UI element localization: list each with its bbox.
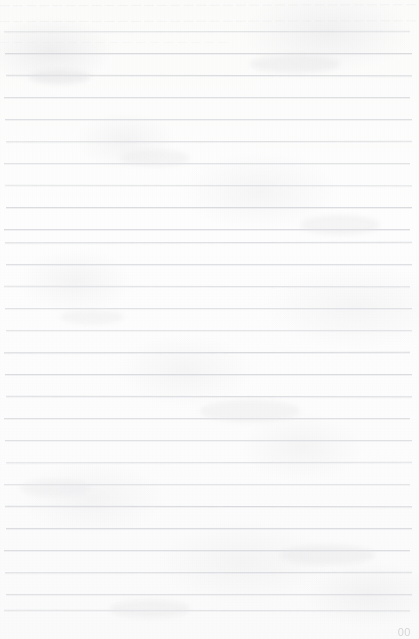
ruled-line <box>5 374 412 375</box>
paper-smudge <box>20 480 90 496</box>
ruled-line <box>6 141 412 142</box>
ruled-line <box>6 462 412 463</box>
ruled-line <box>4 229 410 230</box>
paper-smudge <box>60 310 124 324</box>
ruled-line <box>4 352 410 353</box>
ruled-line <box>4 550 410 551</box>
ruled-line <box>5 308 412 309</box>
ruled-line <box>4 286 410 287</box>
ghost-text-line-2: — — — — — — — — — — — — — — — — — — — — … <box>0 14 419 26</box>
ruled-line <box>6 75 412 76</box>
ruled-line <box>4 418 410 419</box>
ruled-line <box>4 31 410 32</box>
ruled-line <box>6 207 412 208</box>
ruled-lines <box>0 0 419 639</box>
ruled-line <box>4 484 410 485</box>
paper-smudge <box>250 55 340 73</box>
paper-grain-overlay <box>0 0 419 639</box>
ruled-line <box>6 528 412 529</box>
ghost-text-line-3: — — — — — — — — — — — — — — — — — <box>0 36 419 46</box>
paper-smudge <box>280 545 375 565</box>
ruled-line <box>5 53 412 54</box>
paper-smudge <box>300 215 380 235</box>
ruled-line <box>5 440 412 441</box>
ruled-line <box>5 506 412 507</box>
notebook-page: — — — — — — — — — — — — — — — — — — — — … <box>0 0 419 639</box>
ruled-line <box>6 396 412 397</box>
ruled-line <box>6 264 412 265</box>
ghost-text-line-1: — — — — — — — — — — — — — — — — — — — — … <box>0 0 419 11</box>
ruled-line <box>5 572 412 573</box>
ruled-line <box>5 242 412 243</box>
ruled-line <box>5 119 412 120</box>
paper-smudge <box>110 600 190 618</box>
ruled-line <box>6 330 412 331</box>
ruled-line <box>4 163 410 164</box>
paper-smudge <box>120 150 190 166</box>
page-number: 00 <box>398 626 411 638</box>
ruled-line <box>5 185 412 186</box>
ruled-line <box>6 594 412 595</box>
ruled-line <box>4 97 410 98</box>
paper-smudge <box>30 70 90 84</box>
ruled-line <box>4 610 410 611</box>
paper-smudge <box>200 400 300 422</box>
